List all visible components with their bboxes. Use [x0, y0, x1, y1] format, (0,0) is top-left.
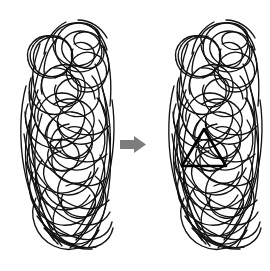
figure-container: Embedded figures task: a dense tangle of…	[0, 0, 270, 271]
canvas-background	[0, 0, 270, 271]
embedded-figure-illustration	[0, 0, 270, 271]
